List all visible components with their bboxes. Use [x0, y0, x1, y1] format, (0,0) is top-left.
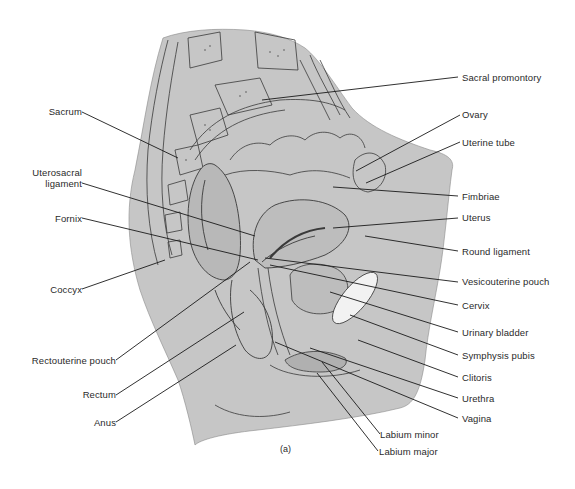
label-round-ligament: Round ligament — [462, 246, 530, 257]
label-clitoris: Clitoris — [462, 372, 492, 383]
label-symphysis-pubis: Symphysis pubis — [462, 350, 535, 361]
label-labium-major: Labium major — [379, 446, 438, 457]
label-labium-minor: Labium minor — [380, 429, 439, 440]
anatomy-figure: Sacrum Uterosacral ligament Fornix Coccy… — [0, 0, 575, 489]
label-sacral-promontory: Sacral promontory — [462, 72, 541, 83]
label-vesicouterine-pouch: Vesicouterine pouch — [462, 276, 549, 287]
label-anus: Anus — [94, 417, 116, 428]
label-fimbriae: Fimbriae — [462, 191, 500, 202]
label-rectouterine-pouch: Rectouterine pouch — [32, 355, 116, 366]
label-uterosacral-ligament-line1: Uterosacral — [32, 167, 82, 178]
label-sacrum: Sacrum — [49, 106, 82, 117]
label-rectum: Rectum — [83, 389, 116, 400]
label-urinary-bladder: Urinary bladder — [462, 327, 528, 338]
label-uterus: Uterus — [462, 212, 491, 223]
label-cervix: Cervix — [462, 300, 490, 311]
label-ovary: Ovary — [462, 109, 488, 120]
label-vagina: Vagina — [462, 413, 491, 424]
label-uterine-tube: Uterine tube — [462, 137, 515, 148]
label-uterosacral-ligament-line2: ligament — [45, 178, 82, 189]
label-fornix: Fornix — [55, 213, 82, 224]
label-urethra: Urethra — [462, 393, 494, 404]
panel-label: (a) — [280, 444, 291, 454]
label-coccyx: Coccyx — [50, 284, 82, 295]
